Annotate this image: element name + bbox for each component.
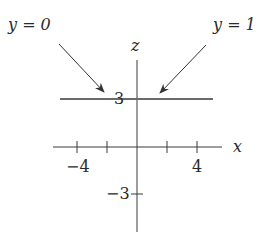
z-axis-label: z	[130, 36, 140, 55]
arrow-y1	[160, 45, 206, 93]
x-axis-label: x	[233, 137, 242, 156]
z-tick-label-neg3: −3	[106, 184, 130, 203]
x-tick-label-neg4: −4	[66, 157, 90, 176]
x-tick-label-4: 4	[192, 157, 202, 176]
z-tick-label-3: 3	[114, 89, 124, 108]
arrow-y0	[59, 44, 104, 92]
diagram-canvas: x z −4 4 3 −3 y = 0 y = 1	[0, 0, 262, 238]
annotation-y0: y = 0	[7, 15, 51, 34]
annotation-y1: y = 1	[212, 15, 256, 34]
